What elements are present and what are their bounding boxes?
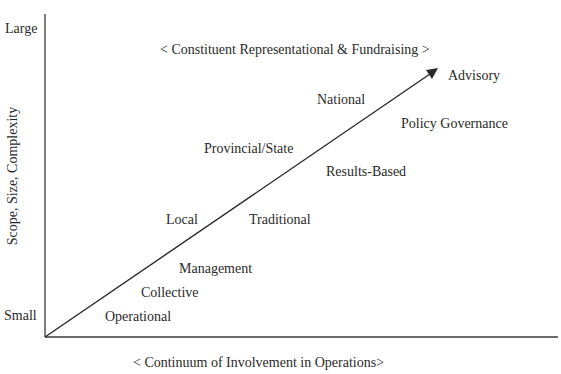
label-policy-governance: Policy Governance bbox=[401, 117, 508, 131]
label-provincial-state: Provincial/State bbox=[204, 142, 293, 156]
label-operational: Operational bbox=[105, 310, 171, 324]
label-results-based: Results-Based bbox=[326, 165, 406, 179]
label-national: National bbox=[317, 93, 365, 107]
label-collective: Collective bbox=[141, 286, 199, 300]
y-axis-label: Scope, Size, Complexity bbox=[6, 107, 20, 245]
arrow-head-icon bbox=[426, 68, 438, 79]
y-axis-bottom-label: Small bbox=[4, 309, 37, 323]
top-banner-label: < Constituent Representational & Fundrai… bbox=[160, 43, 430, 57]
label-management: Management bbox=[179, 262, 252, 276]
label-local: Local bbox=[166, 213, 198, 227]
label-traditional: Traditional bbox=[249, 213, 311, 227]
label-advisory: Advisory bbox=[448, 69, 500, 83]
y-axis-top-label: Large bbox=[5, 22, 37, 36]
diagonal-arrow-shaft bbox=[45, 74, 430, 337]
x-axis-label: < Continuum of Involvement in Operations… bbox=[133, 356, 384, 370]
